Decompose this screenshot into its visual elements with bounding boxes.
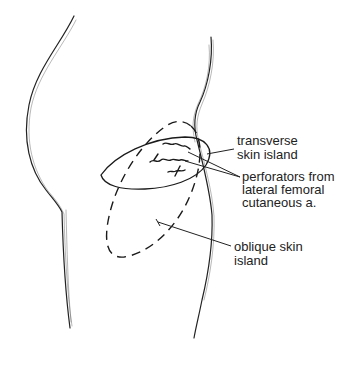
label-oblique-line1: oblique skin bbox=[234, 240, 303, 253]
label-perforators-line3: cutaneous a. bbox=[242, 196, 316, 209]
leader-oblique bbox=[158, 222, 231, 246]
leader-lines bbox=[156, 149, 240, 246]
label-transverse-line2: skin island bbox=[237, 148, 298, 161]
label-transverse-line1: transverse bbox=[237, 134, 298, 147]
perforator-vessels bbox=[150, 143, 190, 176]
label-oblique-line2: island bbox=[234, 254, 268, 267]
lateral-thigh-contour bbox=[193, 37, 214, 338]
leader-transverse bbox=[207, 149, 234, 154]
buttock-contour bbox=[26, 16, 76, 328]
